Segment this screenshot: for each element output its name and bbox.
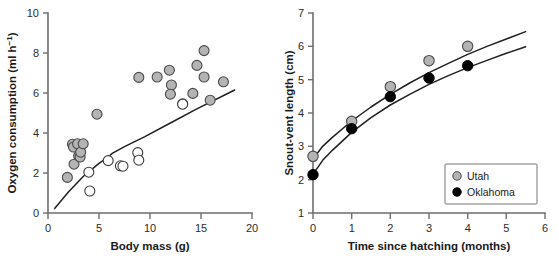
right-x-ticklabel-1: 1 bbox=[349, 222, 355, 234]
datapoint-gray bbox=[62, 172, 72, 182]
right-oklahoma-datapoints bbox=[308, 60, 473, 179]
datapoint-oklahoma bbox=[424, 73, 434, 83]
left-x-ticklabel-20: 20 bbox=[246, 222, 258, 234]
left-y-ticklabel-6: 6 bbox=[33, 87, 39, 99]
datapoint-gray bbox=[78, 139, 88, 149]
left-y-axis-title-base: Oxygen consumption (ml h bbox=[6, 45, 18, 193]
datapoint-open bbox=[178, 99, 188, 109]
left-x-ticks bbox=[48, 213, 252, 219]
datapoint-gray bbox=[205, 95, 215, 105]
right-utah-fit-curve bbox=[313, 32, 526, 159]
datapoint-oklahoma bbox=[346, 123, 356, 133]
left-x-ticklabel-15: 15 bbox=[195, 222, 207, 234]
right-x-ticklabel-6: 6 bbox=[542, 222, 548, 234]
datapoint-gray bbox=[134, 72, 144, 82]
datapoint-utah bbox=[462, 41, 472, 51]
right-x-ticklabel-3: 3 bbox=[426, 222, 432, 234]
left-y-axis-title-tail: ) bbox=[6, 32, 18, 36]
panel-snout-vent-length: 7 6 5 4 3 2 1 0 1 2 3 bbox=[279, 0, 559, 258]
legend-label-utah: Utah bbox=[467, 170, 489, 182]
datapoint-gray bbox=[164, 65, 174, 75]
datapoint-oklahoma bbox=[385, 91, 395, 101]
right-y-ticklabel-6: 6 bbox=[298, 40, 304, 52]
right-oklahoma-fit-curve bbox=[313, 47, 526, 175]
right-y-ticklabel-2: 2 bbox=[298, 174, 304, 186]
datapoint-oklahoma bbox=[308, 169, 318, 179]
legend-marker-utah-icon bbox=[453, 172, 461, 180]
datapoint-open bbox=[85, 186, 95, 196]
datapoint-gray bbox=[165, 89, 175, 99]
datapoint-utah bbox=[308, 151, 318, 161]
right-y-axis-title: Snout-vent length (cm) bbox=[283, 50, 295, 175]
datapoint-gray bbox=[218, 77, 228, 87]
legend: Utah Oklahoma bbox=[445, 164, 537, 204]
panel-oxygen-consumption: 10 8 6 4 2 0 0 5 10 15 20 bbox=[0, 0, 279, 258]
left-y-ticklabel-2: 2 bbox=[33, 167, 39, 179]
left-y-ticklabel-10: 10 bbox=[27, 7, 39, 19]
datapoint-gray bbox=[166, 80, 176, 90]
left-plot-svg: 10 8 6 4 2 0 0 5 10 15 20 bbox=[0, 0, 279, 258]
left-gray-datapoints bbox=[62, 46, 228, 183]
right-x-ticklabels: 0 1 2 3 4 5 6 bbox=[310, 222, 548, 234]
left-x-ticklabels: 0 5 10 15 20 bbox=[45, 222, 258, 234]
right-x-ticks bbox=[313, 213, 545, 219]
left-x-ticklabel-10: 10 bbox=[144, 222, 156, 234]
datapoint-gray bbox=[188, 88, 198, 98]
legend-box bbox=[445, 164, 537, 204]
datapoint-utah bbox=[424, 55, 434, 65]
left-y-ticklabel-8: 8 bbox=[33, 47, 39, 59]
left-y-ticklabel-0: 0 bbox=[33, 207, 39, 219]
figure-container: 10 8 6 4 2 0 0 5 10 15 20 bbox=[0, 0, 559, 258]
right-y-ticklabel-5: 5 bbox=[298, 74, 304, 86]
datapoint-gray bbox=[199, 46, 209, 56]
right-x-ticklabel-4: 4 bbox=[465, 222, 471, 234]
right-x-ticklabel-2: 2 bbox=[387, 222, 393, 234]
left-x-ticklabel-0: 0 bbox=[45, 222, 51, 234]
datapoint-utah bbox=[385, 81, 395, 91]
datapoint-gray bbox=[199, 72, 209, 82]
datapoint-oklahoma bbox=[462, 60, 472, 70]
datapoint-gray bbox=[92, 109, 102, 119]
datapoint-open bbox=[118, 161, 128, 171]
left-y-ticklabel-4: 4 bbox=[33, 127, 39, 139]
left-y-axis-title: Oxygen consumption (ml h−1) bbox=[5, 32, 18, 193]
right-y-ticklabel-7: 7 bbox=[298, 7, 304, 19]
left-y-ticklabels: 10 8 6 4 2 0 bbox=[27, 7, 39, 219]
legend-label-oklahoma: Oklahoma bbox=[467, 186, 515, 198]
right-x-ticklabel-5: 5 bbox=[503, 222, 509, 234]
right-y-ticklabel-3: 3 bbox=[298, 140, 304, 152]
right-x-axis-title: Time since hatching (months) bbox=[348, 240, 511, 252]
right-x-ticklabel-0: 0 bbox=[310, 222, 316, 234]
datapoint-open bbox=[134, 155, 144, 165]
datapoint-open bbox=[84, 167, 94, 177]
right-y-ticklabels: 7 6 5 4 3 2 1 bbox=[298, 7, 304, 219]
left-x-ticklabel-5: 5 bbox=[96, 222, 102, 234]
datapoint-open bbox=[103, 156, 113, 166]
right-y-ticklabel-4: 4 bbox=[298, 107, 304, 119]
datapoint-gray bbox=[152, 72, 162, 82]
legend-marker-oklahoma-icon bbox=[453, 188, 461, 196]
datapoint-gray bbox=[192, 60, 202, 70]
left-x-axis-title: Body mass (g) bbox=[110, 240, 189, 252]
right-plot-svg: 7 6 5 4 3 2 1 0 1 2 3 bbox=[279, 0, 559, 258]
left-axis-lines bbox=[48, 13, 252, 213]
right-y-ticklabel-1: 1 bbox=[298, 207, 304, 219]
